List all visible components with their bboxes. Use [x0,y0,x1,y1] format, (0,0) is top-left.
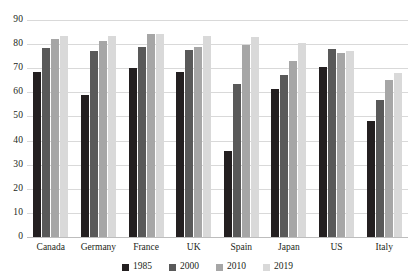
bar-group [360,20,408,237]
bar [224,151,232,237]
bar-group [75,20,123,237]
bar [99,41,107,238]
bar-groups [27,20,408,237]
bar [298,43,306,237]
legend: 1985200020102019 [0,259,415,275]
bar [280,75,288,237]
bar [90,51,98,237]
bar [185,50,193,237]
bar [346,51,354,237]
legend-swatch-icon [216,264,223,271]
legend-label: 1985 [133,262,152,272]
y-tick-label: 40 [13,136,23,146]
bar [138,47,146,237]
x-axis: CanadaGermanyFranceUKSpainJapanUSItaly [27,238,408,256]
legend-item-2000[interactable]: 2000 [169,262,199,272]
y-tick-label: 0 [18,232,23,242]
legend-item-2019[interactable]: 2019 [263,262,293,272]
bar-group [170,20,218,237]
bar [176,72,184,237]
bar [129,68,137,237]
bar [42,48,50,237]
legend-label: 2000 [180,262,199,272]
bar [385,80,393,237]
x-tick-label-japan: Japan [265,238,313,256]
bar [33,72,41,237]
plot-area [27,20,408,237]
bar [376,100,384,237]
bar [328,49,336,237]
bar [319,67,327,237]
bar [194,47,202,237]
legend-label: 2019 [274,262,293,272]
x-tick-label-france: France [122,238,170,256]
y-tick-label: 10 [13,208,23,218]
bar [251,37,259,237]
bar [81,95,89,237]
x-tick-label-canada: Canada [27,238,75,256]
y-tick-label: 80 [13,39,23,49]
bar-group [265,20,313,237]
bar [289,61,297,237]
x-tick-label-italy: Italy [360,238,408,256]
bar [60,36,68,237]
y-tick-label: 90 [13,15,23,25]
y-tick-label: 60 [13,88,23,98]
bar [242,45,250,237]
bar-group [122,20,170,237]
bar [108,36,116,237]
bar [367,121,375,237]
bar-group [313,20,361,237]
bar [203,36,211,237]
y-tick-label: 30 [13,160,23,170]
y-tick-label: 70 [13,63,23,73]
bar [394,73,402,237]
bar-group [218,20,266,237]
legend-swatch-icon [169,264,176,271]
bar [271,89,279,237]
legend-swatch-icon [263,264,270,271]
y-tick-label: 50 [13,112,23,122]
legend-item-2010[interactable]: 2010 [216,262,246,272]
bar [156,34,164,237]
y-tick-label: 20 [13,184,23,194]
x-tick-label-us: US [313,238,361,256]
bar [147,34,155,237]
legend-label: 2010 [227,262,246,272]
x-tick-label-spain: Spain [218,238,266,256]
bar [233,84,241,237]
bar-group [27,20,75,237]
bar-chart: 0102030405060708090 CanadaGermanyFranceU… [0,0,415,280]
legend-item-1985[interactable]: 1985 [122,262,152,272]
x-tick-label-uk: UK [170,238,218,256]
bar [337,53,345,237]
bar [51,39,59,237]
legend-swatch-icon [122,264,129,271]
x-tick-label-germany: Germany [75,238,123,256]
y-axis: 0102030405060708090 [0,0,27,280]
